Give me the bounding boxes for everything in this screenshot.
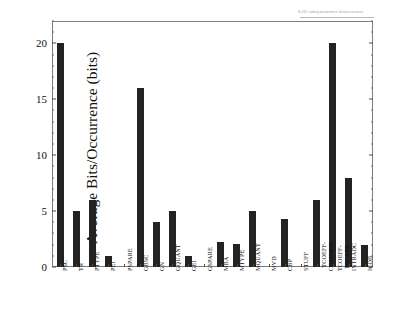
y-tick-minor (52, 110, 54, 111)
x-axis-label: TR (78, 263, 84, 271)
x-axis-label-line: INTRADC (351, 243, 357, 271)
y-tick-minor-right (371, 177, 373, 178)
y-tick-label: 0 (42, 261, 48, 273)
y-tick-label: 15 (36, 93, 47, 105)
bar (57, 43, 64, 267)
y-tick-minor-right (371, 166, 373, 167)
x-axis-label-line: MVD (271, 256, 277, 271)
x-axis-label: GQUANT (175, 244, 181, 271)
x-axis-label-line: COMMON (327, 242, 334, 271)
y-tick-minor (52, 188, 54, 189)
y-tick-label: 20 (36, 37, 47, 49)
y-tick-mark-right (369, 155, 373, 156)
x-axis-label: INTRADC (351, 243, 357, 271)
y-tick-mark-right (369, 99, 373, 100)
x-axis-label-line: MTYPE (239, 250, 245, 271)
y-tick-minor (52, 255, 54, 256)
y-tick-minor-right (371, 244, 373, 245)
x-axis-label-line: GQUANT (175, 244, 181, 271)
y-tick-minor (52, 166, 54, 167)
y-tick-minor (52, 144, 54, 145)
x-axis-label: TCOEFF-ESCAPE (337, 245, 350, 271)
y-tick-minor (52, 88, 54, 89)
y-tick-mark-right (369, 211, 373, 212)
x-axis-label: ICOB (367, 256, 373, 271)
x-axis-label: MBA (223, 257, 229, 271)
y-tick-minor-right (371, 222, 373, 223)
y-tick-minor (52, 76, 54, 77)
x-axis-label-line: PTYPE (94, 252, 100, 271)
x-axis-label-line: MBA (223, 257, 229, 271)
y-tick-minor-right (371, 233, 373, 234)
bar (73, 211, 80, 267)
y-tick-minor-right (371, 110, 373, 111)
x-axis-label-line: STUFF (303, 252, 309, 271)
y-tick-minor-right (371, 76, 373, 77)
x-axis-label: MTYPE (239, 250, 245, 271)
y-tick-minor (52, 244, 54, 245)
y-tick-mark (52, 99, 56, 100)
y-tick-minor (52, 233, 54, 234)
y-tick-minor-right (371, 65, 373, 66)
figure-canvas: H.261 coding parameters: bits/occurrence… (0, 0, 395, 322)
x-axis-label-line: PEI (110, 261, 116, 271)
x-axis-label: PEI (110, 261, 116, 271)
x-axis-label: MQUANT (255, 243, 261, 271)
y-tick-minor (52, 121, 54, 122)
y-tick-mark (52, 211, 56, 212)
x-axis-label: GBSC (143, 254, 149, 271)
y-tick-label: 10 (36, 149, 47, 161)
header-note-text: H.261 coding parameters: bits/occurrence (298, 8, 390, 16)
x-axis-label-line: GSPARE (207, 247, 213, 271)
y-tick-minor (52, 32, 54, 33)
x-axis-label-line: PSC (62, 260, 68, 271)
y-tick-minor-right (371, 32, 373, 33)
x-axis-label-line: CBP (287, 259, 293, 271)
x-axis-label: GEI (191, 260, 197, 271)
y-tick-minor-right (371, 188, 373, 189)
y-tick-minor (52, 132, 54, 133)
x-axis-label-line: GBSC (143, 254, 149, 271)
x-axis-label: TCOEFF-COMMON (321, 242, 334, 271)
y-tick-mark (52, 267, 56, 268)
bar (137, 88, 144, 267)
x-axis-label-line: GN (159, 262, 165, 271)
x-axis-label: STUFF (303, 252, 309, 271)
y-tick-minor-right (371, 54, 373, 55)
y-tick-minor-right (371, 121, 373, 122)
y-tick-mark (52, 155, 56, 156)
x-tick-mark (317, 264, 318, 267)
y-tick-minor-right (371, 88, 373, 89)
header-rule-divider (300, 17, 374, 18)
x-axis-label-line: ICOB (367, 256, 373, 271)
bar (329, 43, 336, 267)
y-tick-label: 5 (42, 205, 48, 217)
x-axis-label: PSPARE (127, 248, 133, 271)
x-axis-label: PTYPE (94, 252, 100, 271)
y-tick-minor-right (371, 144, 373, 145)
x-axis-label: CBP (287, 259, 293, 271)
y-tick-minor (52, 177, 54, 178)
y-tick-mark-right (369, 43, 373, 44)
y-tick-minor (52, 65, 54, 66)
x-axis-label: MVD (271, 256, 277, 271)
plot-area: Average Bits/Occurrence (bits) 05101520 (52, 21, 373, 267)
x-axis-label: PSC (62, 260, 68, 271)
y-tick-minor (52, 199, 54, 200)
x-axis-label-line: PSPARE (127, 248, 133, 271)
x-axis-label: GSPARE (207, 247, 213, 271)
y-tick-minor (52, 54, 54, 55)
x-axis-label-line: MQUANT (255, 243, 261, 271)
y-tick-minor (52, 222, 54, 223)
x-axis-label-line: TR (78, 263, 84, 271)
y-tick-mark (52, 43, 56, 44)
y-tick-minor-right (371, 199, 373, 200)
y-tick-minor-right (371, 132, 373, 133)
x-axis-label: GN (159, 262, 165, 271)
y-tick-minor (52, 21, 54, 22)
x-axis-label-line: GEI (191, 260, 197, 271)
y-tick-minor-right (371, 21, 373, 22)
bar (153, 222, 160, 267)
